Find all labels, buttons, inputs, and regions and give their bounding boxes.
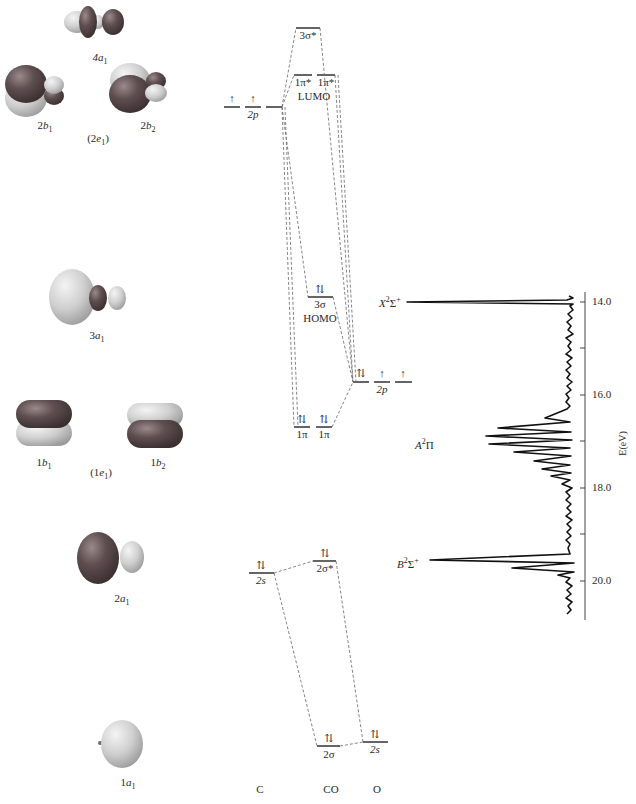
orbital-2b2-picture: [109, 63, 167, 113]
co-2sigma-star-label: 2σ*: [317, 562, 334, 574]
energy-axis: [580, 292, 585, 620]
o-2p-electron-1: ⇅: [356, 367, 365, 380]
homo-tag: HOMO: [303, 312, 337, 324]
orbital-1a1-picture: [100, 720, 143, 768]
mo-diagram-canvas: [0, 0, 636, 804]
orbital-1b2-picture: [127, 403, 183, 448]
orbital-label-2b1: 2b1: [38, 119, 53, 134]
orbital-label-3a1: 3a1: [90, 329, 105, 344]
group-label-2e1: (2e1): [87, 132, 109, 147]
axis-tick-20: 20.0: [592, 574, 611, 586]
band-label-a2pi: A2Π: [415, 437, 434, 451]
co-1pi-b-label: 1π: [318, 428, 329, 440]
orbital-2b1-picture: [5, 65, 64, 117]
correlation-lines: [274, 28, 363, 746]
o-2p-electron-2: ↑: [379, 367, 385, 379]
co-1pi-star-a-label: 1π*: [295, 76, 312, 88]
orbital-3a1-picture: [49, 269, 126, 325]
orbital-2a1-picture: [77, 532, 144, 584]
co-1pi-a-label: 1π: [296, 428, 307, 440]
o-2s-electrons: ⇅: [370, 728, 379, 741]
band-label-x2sigma: X2Σ+: [379, 295, 401, 309]
co-3sigma-star-label: 3σ*: [300, 29, 317, 41]
o-2p-electron-3: ↑: [400, 367, 406, 379]
lumo-tag: LUMO: [298, 90, 330, 102]
o-2p-label: 2p: [377, 383, 388, 395]
co-1pi-b-electrons: ⇅: [319, 413, 328, 426]
column-label-co: CO: [323, 783, 338, 795]
co-2sigma-electrons: ⇅: [324, 732, 333, 745]
c-2p-label: 2p: [248, 108, 259, 120]
c-2p-electron-1: ↑: [229, 92, 235, 104]
c-2s-label: 2s: [256, 574, 266, 586]
orbital-label-1a1: 1a1: [121, 776, 136, 791]
orbital-label-2b2: 2b2: [141, 119, 156, 134]
column-label-c: C: [256, 783, 263, 795]
co-2sigma-star-electrons: ⇅: [320, 547, 329, 560]
pes-spectrum-trace: [407, 296, 574, 614]
o-2s-label: 2s: [370, 743, 380, 755]
axis-title-energy: E(eV): [617, 431, 628, 455]
co-3sigma-label: 3σ: [314, 298, 325, 310]
orbital-4a1-picture: [64, 6, 124, 38]
co-1pi-a-electrons: ⇅: [297, 413, 306, 426]
orbital-label-4a1: 4a1: [93, 51, 108, 66]
co-1pi-star-b-label: 1π*: [318, 76, 335, 88]
orbital-label-1b2: 1b2: [151, 456, 166, 471]
co-2sigma-label: 2σ: [323, 748, 334, 760]
orbital-label-1b1: 1b1: [37, 456, 52, 471]
co-3sigma-electrons: ⇅: [315, 283, 324, 296]
axis-tick-16: 16.0: [592, 388, 611, 400]
column-label-o: O: [373, 783, 381, 795]
group-label-1e1: (1e1): [90, 466, 112, 481]
band-label-b2sigma: B2Σ+: [397, 556, 419, 570]
orbital-1b1-picture: [16, 400, 72, 446]
orbital-label-2a1: 2a1: [115, 592, 130, 607]
axis-tick-18: 18.0: [592, 481, 611, 493]
axis-tick-14: 14.0: [592, 295, 611, 307]
c-2p-electron-2: ↑: [250, 92, 256, 104]
c-2s-electrons: ⇅: [256, 559, 265, 572]
